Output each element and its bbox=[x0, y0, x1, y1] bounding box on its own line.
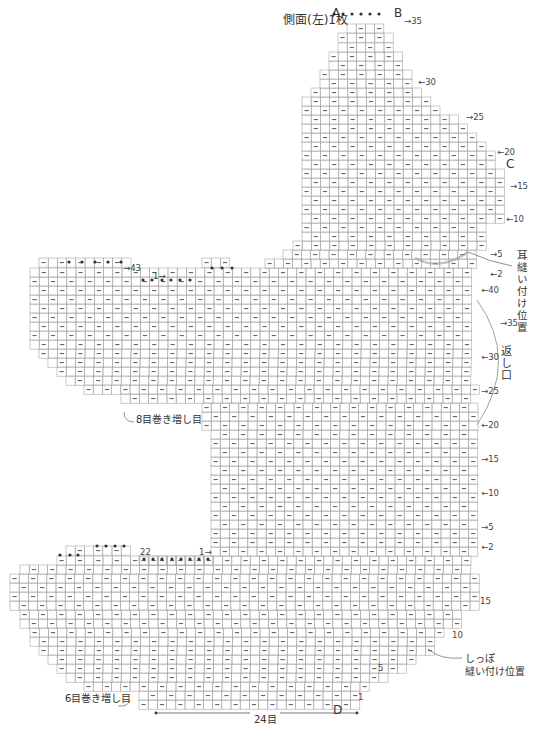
ear-position-note: 耳縫い付け位置 bbox=[515, 250, 526, 334]
row-label: →15 bbox=[481, 455, 499, 464]
row-label: ←30 bbox=[418, 78, 436, 87]
row-label: 1 bbox=[358, 693, 363, 702]
row-label: 10 bbox=[452, 631, 463, 640]
row-label: →35 bbox=[404, 17, 422, 26]
marker-b: B bbox=[394, 7, 402, 19]
row-label: →25 bbox=[466, 113, 484, 122]
marker-d: D bbox=[333, 704, 342, 716]
row-label: ←40 bbox=[481, 286, 499, 295]
row-label: ←20 bbox=[481, 421, 499, 430]
cast-on-6-note: 6目巻き増し目 bbox=[65, 693, 131, 706]
row-label: 1→ bbox=[153, 272, 166, 281]
row-label: ←10 bbox=[506, 215, 524, 224]
tail-position-note: しっぽ 縫い付け位置 bbox=[465, 653, 525, 678]
row-label: ←10 bbox=[481, 489, 499, 498]
row-label: 5 bbox=[378, 664, 383, 673]
row-label: →25 bbox=[481, 387, 499, 396]
row-label: →5 bbox=[490, 250, 503, 259]
marker-c: C bbox=[506, 158, 514, 170]
row-label: →43 bbox=[123, 264, 141, 273]
row-label: 1→ bbox=[199, 548, 212, 557]
row-label: →5 bbox=[481, 523, 494, 532]
marker-a: A bbox=[332, 7, 340, 19]
return-opening-note: 返し口 bbox=[499, 345, 511, 381]
row-label: →15 bbox=[510, 182, 528, 191]
row-label: ←2 bbox=[481, 543, 494, 552]
cast-on-8-note: 8目巻き増し目 bbox=[136, 414, 202, 427]
row-label: ←20 bbox=[497, 148, 515, 157]
row-label: ←2 bbox=[490, 270, 503, 279]
row-label: ←30 bbox=[481, 353, 499, 362]
row-label: 15 bbox=[480, 597, 491, 606]
width-label: 24目 bbox=[254, 714, 277, 727]
row-label: 22 bbox=[140, 548, 151, 557]
